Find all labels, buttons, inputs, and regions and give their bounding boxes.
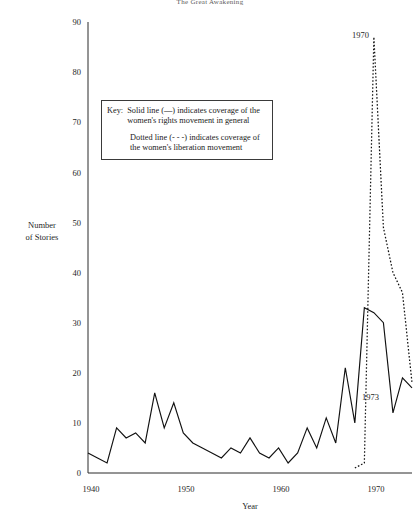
x-tick-1950: 1950	[178, 484, 195, 494]
y-tick-30: 30	[73, 318, 82, 328]
key-entry-dotted-text: Dotted line (- - -) indicates coverage o…	[107, 133, 267, 152]
chart-plot-area: 90 80 70 60 50 40 30 20 10 0 1940 1950 1…	[0, 0, 420, 519]
y-tick-60: 60	[73, 168, 82, 178]
x-tick-1940: 1940	[83, 484, 100, 494]
y-tick-10: 10	[73, 418, 82, 428]
key-label: Key:	[107, 106, 127, 116]
y-axis-tick-labels: 90 80 70 60 50 40 30 20 10 0	[73, 17, 82, 478]
annotation-1973: 1973	[362, 392, 379, 402]
key-entry-solid: Key: Solid line (—) indicates coverage o…	[107, 106, 267, 125]
y-axis-title-line1: Number	[28, 220, 56, 230]
y-tick-90: 90	[73, 17, 82, 27]
series-line-womens-rights	[88, 308, 412, 463]
y-tick-70: 70	[73, 117, 82, 127]
y-tick-50: 50	[73, 218, 82, 228]
chart-axes	[88, 22, 412, 473]
figure-container: The Great Awakening 90 80 70 60 50 40 30…	[0, 0, 420, 519]
x-tick-1970: 1970	[368, 484, 385, 494]
x-tick-1960: 1960	[273, 484, 290, 494]
x-axis-title: Year	[242, 501, 258, 511]
annotation-1970: 1970	[352, 30, 369, 40]
y-tick-0: 0	[77, 468, 81, 478]
series-line-womens-liberation	[355, 37, 412, 468]
y-tick-20: 20	[73, 368, 82, 378]
key-entry-solid-text: Solid line (—) indicates coverage of the…	[127, 106, 267, 125]
y-tick-40: 40	[73, 268, 82, 278]
y-axis-title-line2: of Stories	[26, 232, 59, 242]
chart-key-box: Key: Solid line (—) indicates coverage o…	[101, 100, 273, 160]
x-axis-tick-labels: 1940 1950 1960 1970	[83, 484, 385, 494]
y-tick-80: 80	[73, 67, 82, 77]
